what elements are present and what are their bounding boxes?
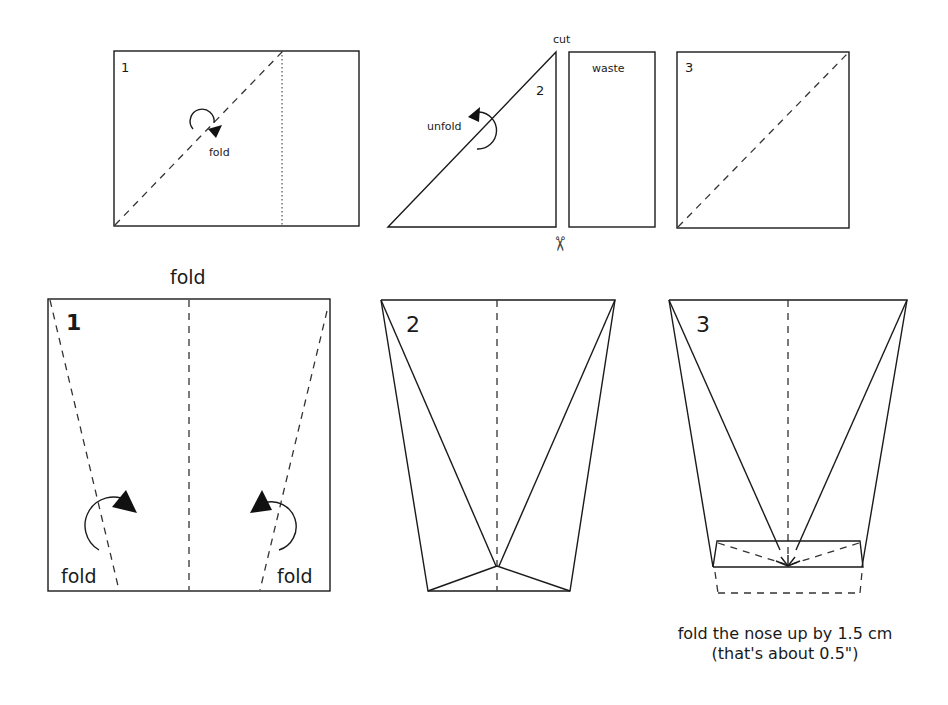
bottom-step1-number: 1 <box>66 310 81 335</box>
nose-fold-caption: fold the nose up by 1.5 cm (that's about… <box>660 624 910 664</box>
bottom-step2-number: 2 <box>406 312 420 337</box>
top-step3-square <box>677 52 849 228</box>
caption-line1: fold the nose up by 1.5 cm <box>660 624 910 644</box>
bottom-step3-plane <box>669 300 907 593</box>
top-step2-waste-label: waste <box>592 62 625 75</box>
top-step1-sheet <box>114 51 359 226</box>
bottom-step1-left-fold-label: fold <box>61 565 97 587</box>
bottom-step1-right-fold-label: fold <box>277 565 313 587</box>
instruction-diagram <box>0 0 948 705</box>
top-step3-number: 3 <box>685 60 693 75</box>
top-step2-number: 2 <box>536 83 544 98</box>
crease-fan <box>776 555 800 566</box>
top-step2-unfold-label: unfold <box>427 120 462 133</box>
top-step1-number: 1 <box>121 60 129 75</box>
scissors-icon: ✂ <box>548 236 572 253</box>
bottom-step1-top-fold-label: fold <box>170 266 206 288</box>
caption-line2: (that's about 0.5") <box>660 644 910 664</box>
top-step2-cut-label: cut <box>553 33 570 46</box>
bottom-step3-number: 3 <box>696 312 710 337</box>
top-step1-fold-label: fold <box>209 146 230 159</box>
fold-arrow-icon <box>190 109 214 129</box>
bottom-step1-square <box>48 299 330 591</box>
bottom-step2-plane <box>381 300 615 591</box>
top-step2-triangle <box>388 52 655 227</box>
